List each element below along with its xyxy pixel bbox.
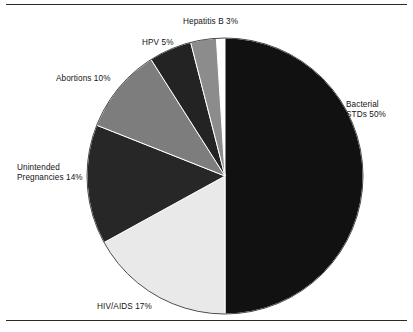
pie-label-hiv-aids: HIV/AIDS 17% xyxy=(97,302,197,312)
pie-label-hpv: HPV 5% xyxy=(142,38,198,48)
bottom-divider-rule xyxy=(6,320,407,321)
pie-label-unintended-pregnancies: Unintended Pregnancies 14% xyxy=(17,163,105,184)
pie-label-bacterial-stds: Bacterial STDs 50% xyxy=(346,100,410,121)
pie-label-hepatitis-b: Hepatitis B 3% xyxy=(183,17,273,27)
pie-label-abortions: Abortions 10% xyxy=(56,74,136,84)
pie-chart-figure: Bacterial STDs 50% HIV/AIDS 17% Unintend… xyxy=(0,0,413,332)
pie-slice-bacterial-stds[interactable] xyxy=(225,38,363,314)
